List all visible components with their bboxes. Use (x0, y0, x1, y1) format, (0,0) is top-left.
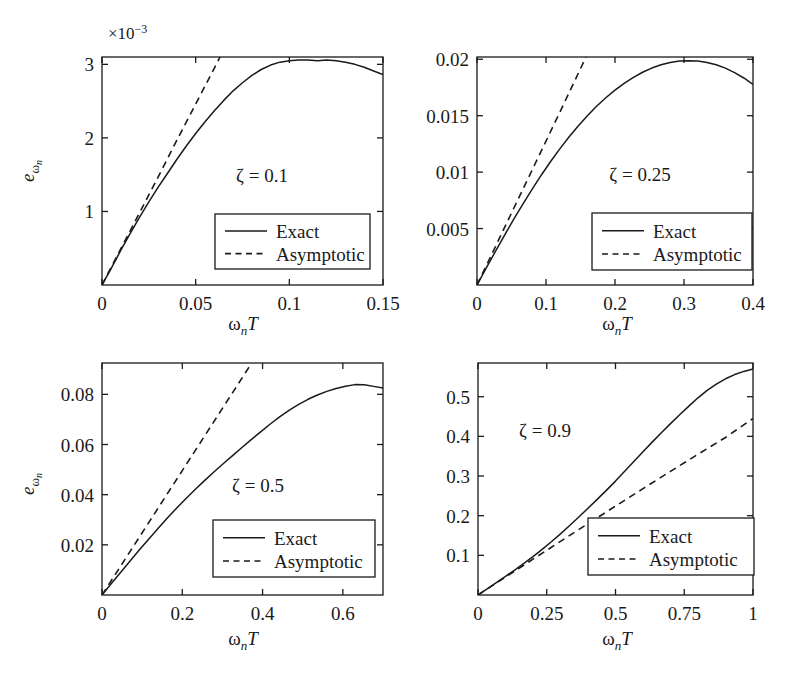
y-tick-label: 0.5 (446, 387, 470, 408)
x-tick-label: 0.5 (604, 603, 628, 624)
y-tick-label: 0.2 (446, 506, 470, 527)
legend-label-exact: Exact (649, 526, 693, 547)
y-tick-label: 0.3 (446, 466, 470, 487)
x-tick-label: 1 (748, 603, 758, 624)
x-tick-label: 0 (473, 603, 483, 624)
zeta-annotation: ζ = 0.9 (519, 420, 571, 441)
period-T: T (621, 628, 633, 649)
x-tick-label: 0.75 (668, 603, 701, 624)
chart-panel-4: 00.250.50.7510.10.20.30.40.5ζ = 0.9ωnTEx… (0, 0, 790, 680)
x-axis-label: ωnT (602, 628, 633, 653)
omega-glyph: ω (602, 628, 615, 649)
chart-svg-4: 00.250.50.7510.10.20.30.40.5ζ = 0.9ωnTEx… (0, 0, 790, 680)
legend-label-asymptotic: Asymptotic (649, 549, 738, 570)
x-tick-label: 0.25 (530, 603, 563, 624)
y-tick-label: 0.4 (446, 426, 470, 447)
y-tick-label: 0.1 (446, 545, 470, 566)
figure-root: 00.050.10.15123×10−3ζ = 0.1ωnTeωnExactAs… (0, 0, 790, 680)
